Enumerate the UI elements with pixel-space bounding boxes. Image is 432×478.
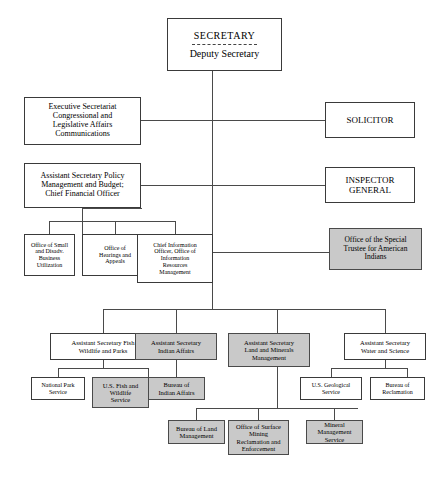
connector-crossbar-row3 bbox=[212, 252, 329, 253]
connector-policy-child1 bbox=[49, 221, 50, 234]
connector-ws-child2 bbox=[407, 368, 408, 377]
connector-asst-sec-drop-2 bbox=[176, 309, 177, 333]
node-bureau-reclamation[interactable]: Bureau ofReclamation bbox=[370, 377, 425, 400]
node-solicitor[interactable]: SOLICITOR bbox=[325, 102, 415, 138]
node-us-fish-wildlife-service[interactable]: U.S. Fish andWildlifeService bbox=[92, 377, 149, 408]
office-hearings-appeals-label: Office ofHearings andAppeals bbox=[85, 245, 145, 265]
inspector-general-label: INSPECTORGENERAL bbox=[328, 175, 412, 195]
node-secretary[interactable]: SECRETARY Deputy Secretary bbox=[167, 18, 282, 71]
connector-lm-child2 bbox=[258, 408, 259, 420]
connector-fwp-bar bbox=[58, 368, 148, 369]
connector-policy-bar bbox=[82, 208, 142, 209]
national-park-service-label: National ParkService bbox=[34, 382, 82, 395]
connector-cio-drop bbox=[175, 221, 176, 234]
office-surface-mining-label: Office of SurfaceMiningReclamation andEn… bbox=[231, 423, 286, 452]
chief-information-officer-label: Chief InformationOfficer, Office ofInfor… bbox=[140, 242, 210, 276]
org-chart: SECRETARY Deputy Secretary Executive Sec… bbox=[0, 0, 432, 478]
node-office-small-disadv[interactable]: Office of Smalland Disadv.BusinessUtiliz… bbox=[24, 234, 75, 276]
node-national-park-service[interactable]: National ParkService bbox=[31, 377, 85, 400]
connector-lm-drop bbox=[277, 367, 278, 408]
connector-crossbar-row2 bbox=[141, 185, 325, 186]
node-executive-secretariat[interactable]: Executive SecretariatCongressional andLe… bbox=[24, 97, 141, 145]
us-fish-wildlife-service-label: U.S. Fish andWildlifeService bbox=[95, 382, 146, 404]
bureau-indian-affairs-label: Bureau ofIndian Affairs bbox=[151, 381, 202, 396]
secretary-divider bbox=[192, 44, 257, 45]
us-geological-service-label: U.S. GeologicalService bbox=[303, 382, 359, 395]
connector-lm-child3 bbox=[334, 408, 335, 420]
office-special-trustee-label: Office of the SpecialTrustee for America… bbox=[332, 236, 419, 261]
solicitor-label: SOLICITOR bbox=[328, 115, 412, 125]
office-small-disadv-label: Office of Smalland Disadv.BusinessUtiliz… bbox=[27, 242, 72, 269]
connector-ws-bar bbox=[331, 368, 407, 369]
node-asst-sec-water-science[interactable]: Assistant SecretaryWater and Science bbox=[344, 333, 426, 360]
executive-secretariat-label: Executive SecretariatCongressional andLe… bbox=[27, 103, 138, 139]
connector-policy-bar2 bbox=[49, 221, 115, 222]
node-office-special-trustee[interactable]: Office of the SpecialTrustee for America… bbox=[329, 228, 422, 270]
bureau-reclamation-label: Bureau ofReclamation bbox=[373, 382, 422, 395]
connector-cio-bar bbox=[115, 221, 175, 222]
node-bureau-indian-affairs[interactable]: Bureau ofIndian Affairs bbox=[148, 377, 205, 400]
node-office-surface-mining[interactable]: Office of SurfaceMiningReclamation andEn… bbox=[228, 420, 289, 455]
secretary-title: SECRETARY bbox=[170, 30, 279, 41]
node-asst-sec-policy[interactable]: Assistant Secretary PolicyManagement and… bbox=[24, 163, 141, 208]
connector-ws-drop bbox=[385, 360, 386, 368]
node-chief-information-officer[interactable]: Chief InformationOfficer, Office ofInfor… bbox=[137, 234, 213, 283]
asst-sec-indian-affairs-label: Assistant SecretaryIndian Affairs bbox=[138, 339, 214, 354]
connector-asst-sec-bar bbox=[103, 309, 385, 310]
asst-sec-policy-label: Assistant Secretary PolicyManagement and… bbox=[27, 172, 138, 199]
connector-ia-drop bbox=[176, 360, 177, 377]
connector-asst-sec-drop-4 bbox=[385, 309, 386, 333]
bureau-land-management-label: Bureau of LandManagement bbox=[171, 425, 222, 440]
connector-fwp-child1 bbox=[58, 368, 59, 377]
node-asst-sec-indian-affairs[interactable]: Assistant SecretaryIndian Affairs bbox=[135, 333, 217, 360]
connector-asst-sec-drop-1 bbox=[103, 309, 104, 333]
connector-policy-child2 bbox=[115, 221, 116, 234]
node-inspector-general[interactable]: INSPECTORGENERAL bbox=[325, 167, 415, 203]
connector-lm-child1 bbox=[196, 408, 197, 420]
node-us-geological-service[interactable]: U.S. GeologicalService bbox=[300, 377, 362, 400]
asst-sec-land-minerals-label: Assistant SecretaryLand and MineralsMana… bbox=[231, 339, 307, 361]
connector-crossbar-row1 bbox=[141, 120, 325, 121]
secretary-subtitle: Deputy Secretary bbox=[190, 48, 260, 59]
node-mineral-management-service[interactable]: MineralManagement Service bbox=[306, 420, 363, 444]
node-bureau-land-management[interactable]: Bureau of LandManagement bbox=[168, 420, 225, 444]
connector-ws-child1 bbox=[331, 368, 332, 377]
connector-fwp-drop bbox=[103, 360, 104, 368]
node-asst-sec-land-minerals[interactable]: Assistant SecretaryLand and MineralsMana… bbox=[228, 333, 310, 367]
connector-fwp-child2 bbox=[148, 368, 149, 377]
mineral-management-service-label: MineralManagement Service bbox=[309, 421, 360, 443]
asst-sec-water-science-label: Assistant SecretaryWater and Science bbox=[347, 339, 423, 354]
connector-asst-sec-drop-3 bbox=[277, 309, 278, 333]
